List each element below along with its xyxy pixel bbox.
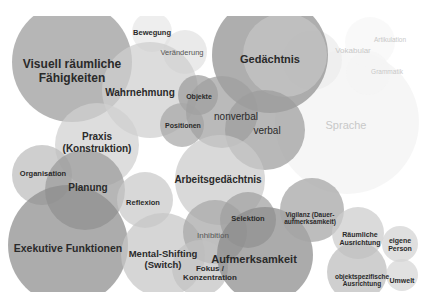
- label-positionen: Positionen: [165, 122, 201, 130]
- label-umwelt: Umwelt: [390, 277, 415, 285]
- bubble-umwelt: [386, 259, 418, 291]
- label-fokus: Fokus / Konzentration: [183, 264, 237, 282]
- label-wahrnehmung: Wahrnehmung: [105, 87, 175, 99]
- label-verbal: verbal: [253, 125, 280, 137]
- label-raeumliche: Räumliche Ausrichtung: [339, 231, 380, 247]
- label-nonverbal: nonverbal: [214, 111, 258, 123]
- label-reflexion: Reflexion: [126, 199, 160, 208]
- label-objekte: Objekte: [186, 93, 212, 101]
- label-veraenderung: Veränderung: [161, 49, 204, 58]
- label-organisation: Organisation: [20, 170, 66, 179]
- label-gedaechtnis: Gedächtnis: [240, 53, 300, 66]
- label-sprache: Sprache: [326, 119, 367, 132]
- label-aufmerksamkeit: Aufmerksamkeit: [211, 253, 297, 266]
- label-visuell: Visuell räumliche Fähigkeiten: [23, 58, 122, 86]
- label-arbeitsgedaechtnis: Arbeitsgedächtnis: [174, 174, 261, 186]
- label-vokabular: Vokabular: [335, 46, 371, 55]
- label-vigilanz: Vigilanz (Dauer- aufmerksamkeit): [284, 211, 336, 226]
- label-objektspezifische: objektspezifische Ausrichtung: [335, 273, 389, 288]
- label-planung: Planung: [68, 182, 107, 194]
- label-bewegung: Bewegung: [133, 29, 171, 38]
- label-selektion: Selektion: [231, 215, 264, 224]
- label-praxis: Praxis (Konstruktion): [63, 131, 132, 154]
- label-artikulation: Artikulation: [374, 36, 406, 43]
- label-inhibition: Inhibition: [197, 231, 229, 240]
- label-eigene-person: eigene Person: [388, 237, 412, 253]
- label-grammatik: Grammatik: [371, 68, 403, 75]
- label-exekutive: Exekutive Funktionen: [14, 242, 123, 254]
